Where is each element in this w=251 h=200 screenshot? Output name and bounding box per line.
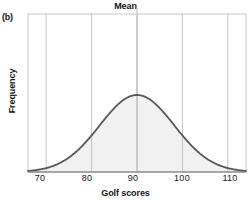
x-tick-label-80: 80 xyxy=(72,173,102,183)
x-tick-label-100: 100 xyxy=(167,173,197,183)
figure-panel-b: (b) Mean Frequency 70 80 90 100 110 Golf… xyxy=(0,0,251,200)
x-tick-label-90: 90 xyxy=(118,173,148,183)
x-tick-label-110: 110 xyxy=(215,173,245,183)
x-axis-label: Golf scores xyxy=(0,188,251,198)
normal-distribution-plot xyxy=(0,0,251,200)
x-tick-label-70: 70 xyxy=(25,173,55,183)
